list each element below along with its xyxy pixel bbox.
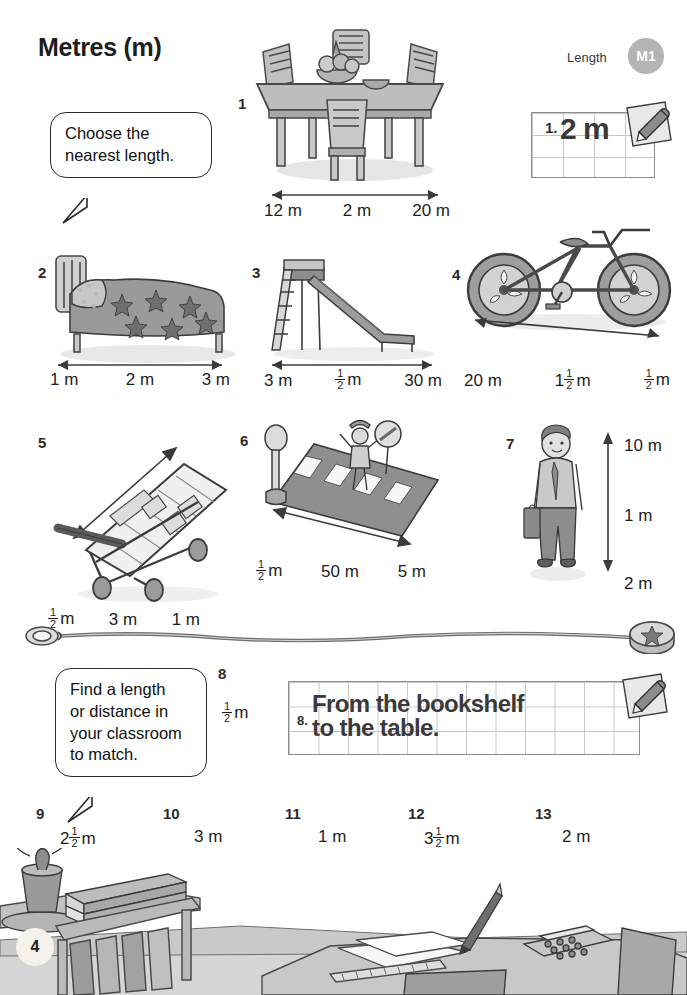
option[interactable]: 12 m	[264, 201, 302, 221]
options-question-3: 3 m 12m 30 m	[264, 369, 442, 392]
fraction-one-half: 12	[564, 368, 574, 391]
option[interactable]: 12m	[335, 369, 361, 392]
option[interactable]: 12m	[644, 369, 670, 392]
instruction-line-2: or distance in	[70, 701, 192, 723]
answer-number-8: 8.	[297, 713, 308, 728]
option[interactable]: 5 m	[398, 562, 426, 582]
option: 312m	[424, 827, 460, 850]
instruction-line-3: your classroom	[70, 723, 192, 745]
classroom-scene-illustration	[0, 848, 687, 995]
instruction-bubble-bottom: Find a length or distance in your classr…	[55, 668, 207, 777]
instruction-line-1: Find a length	[70, 679, 192, 701]
option[interactable]: 2 m	[624, 574, 662, 594]
instruction-bubble-top: Choose the nearest length.	[50, 112, 212, 178]
option[interactable]: 3 m	[264, 371, 292, 391]
option[interactable]: 30 m	[404, 371, 442, 391]
option[interactable]: 10 m	[624, 436, 662, 456]
question-number-2: 2	[38, 264, 46, 281]
pencil-icon	[617, 668, 677, 732]
options-question-4: 20 m 112m 12m	[464, 369, 670, 392]
question-number-5: 5	[38, 434, 46, 451]
option[interactable]: 112m	[555, 369, 591, 392]
question-number-3: 3	[252, 264, 260, 281]
page-title: Metres (m)	[38, 33, 161, 62]
option: 2 m	[562, 827, 590, 847]
task-number-12: 12	[408, 805, 425, 822]
option[interactable]: 2 m	[126, 370, 154, 390]
pencil-icon	[621, 96, 681, 160]
answer-line-1: From the bookshelf	[312, 692, 642, 716]
standing-man-illustration	[516, 424, 600, 584]
fraction-one-half: 12	[256, 559, 266, 582]
option: 12m	[222, 702, 248, 725]
answer-text-8: From the bookshelf to the table.	[312, 692, 642, 739]
zebra-crossing-illustration	[252, 418, 452, 548]
task-length-12: 312m	[424, 827, 460, 850]
instruction-line-4: to match.	[70, 744, 192, 766]
task-length-8: 12m	[222, 702, 248, 725]
question-number-6: 6	[240, 432, 248, 449]
measure-arrow-4	[467, 316, 667, 344]
slide-illustration	[262, 252, 448, 364]
measure-arrow-7	[600, 428, 616, 580]
fraction-one-half: 12	[433, 826, 443, 849]
task-number-11: 11	[285, 805, 301, 822]
question-number-7: 7	[506, 435, 514, 452]
option[interactable]: 20 m	[464, 371, 502, 391]
page-number: 4	[16, 928, 54, 966]
option[interactable]: 20 m	[412, 201, 450, 221]
worksheet-page: Metres (m) Length M1 Choose the nearest …	[0, 0, 687, 995]
fraction-one-half: 12	[335, 368, 345, 391]
fraction-one-half: 12	[644, 368, 654, 391]
task-number-13: 13	[535, 805, 552, 822]
task-number-10: 10	[163, 805, 180, 822]
task-length-9: 212m	[60, 827, 96, 850]
options-question-1: 12 m 2 m 20 m	[264, 201, 450, 221]
string-divider-illustration	[22, 620, 682, 654]
answer-value-1: 2 m	[560, 112, 609, 146]
section-label: Length	[567, 50, 607, 65]
instruction-line-1: Choose the	[65, 123, 197, 145]
option: 212m	[60, 827, 96, 850]
task-length-10: 3 m	[194, 827, 222, 847]
fraction-one-half: 12	[69, 826, 79, 849]
option[interactable]: 2 m	[343, 201, 371, 221]
option[interactable]: 50 m	[321, 562, 359, 582]
task-length-13: 2 m	[562, 827, 590, 847]
instruction-line-2: nearest length.	[65, 145, 197, 167]
task-number-9: 9	[36, 805, 44, 822]
task-length-11: 1 m	[318, 827, 346, 847]
options-question-2: 1 m 2 m 3 m	[50, 370, 230, 390]
answer-line-2: to the table.	[312, 716, 642, 740]
dining-table-illustration	[245, 22, 455, 187]
option[interactable]: 1 m	[624, 506, 662, 526]
bed-illustration	[48, 250, 244, 365]
options-question-7: 10 m 1 m 2 m	[624, 436, 662, 594]
shopping-trolley-illustration	[48, 428, 238, 608]
option: 1 m	[318, 827, 346, 847]
option[interactable]: 1 m	[50, 370, 78, 390]
task-number-8: 8	[218, 665, 226, 682]
unit-badge: M1	[628, 38, 664, 74]
fraction-one-half: 12	[222, 701, 232, 724]
option[interactable]: 3 m	[202, 370, 230, 390]
answer-number-1: 1.	[545, 119, 558, 136]
option[interactable]: 12m	[256, 560, 282, 583]
options-question-6: 12m 50 m 5 m	[256, 560, 426, 583]
option: 3 m	[194, 827, 222, 847]
